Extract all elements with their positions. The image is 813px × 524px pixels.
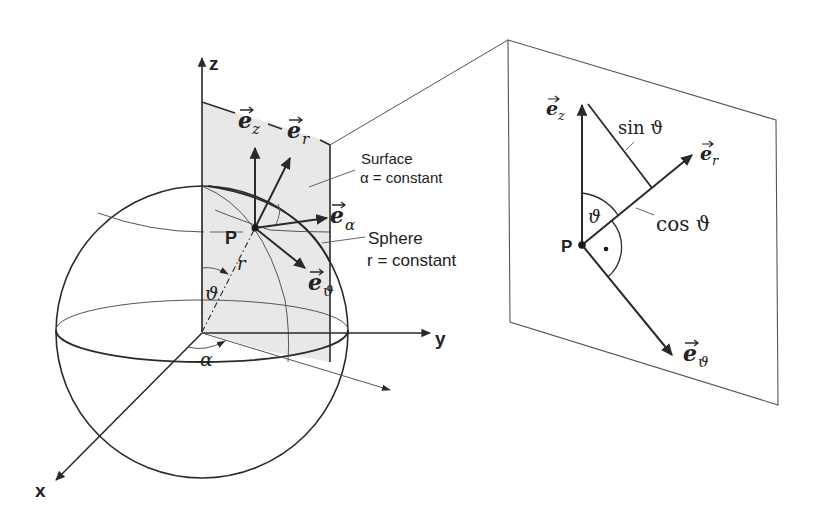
svg-text:z: z — [557, 108, 565, 123]
right-view: P ϑ sin ϑ cos ϑ e z e r e ϑ — [508, 40, 778, 405]
left-view: z y x P r ϑ α e z e r e α e ϑ Surface α — [35, 40, 508, 501]
panel-e-r-label: e r — [700, 141, 719, 168]
connector-top — [330, 40, 508, 145]
alpha-plane-panel — [508, 40, 778, 405]
svg-text:e: e — [287, 117, 301, 143]
svg-text:α: α — [345, 216, 355, 234]
sin-label: sin ϑ — [618, 117, 663, 138]
y-axis-label: y — [435, 328, 446, 349]
svg-text:e: e — [238, 107, 252, 133]
svg-text:ϑ: ϑ — [323, 282, 334, 300]
panel-e-theta-vector — [582, 245, 672, 355]
svg-text:e: e — [683, 340, 697, 366]
cos-leader — [636, 208, 654, 215]
svg-text:r: r — [712, 153, 719, 168]
right-angle-dot — [604, 247, 609, 252]
z-axis-label: z — [209, 53, 219, 74]
x-axis-label: x — [35, 480, 46, 501]
panel-point-p-label: P — [561, 237, 572, 256]
spherical-coordinates-diagram: z y x P r ϑ α e z e r e α e ϑ Surface α — [0, 0, 813, 524]
alpha-label: α — [200, 348, 213, 370]
e-alpha-label: e α — [330, 202, 355, 234]
sin-leader — [626, 142, 634, 150]
svg-text:r: r — [302, 130, 310, 148]
panel-point-p-dot — [578, 241, 586, 249]
panel-e-theta-label: e ϑ — [683, 340, 709, 371]
sphere-condition: r = constant — [367, 251, 457, 270]
point-p-dot — [252, 225, 259, 232]
svg-text:ϑ: ϑ — [698, 353, 709, 371]
radius-label: r — [237, 253, 247, 274]
sphere-title: Sphere — [368, 229, 423, 248]
panel-theta-label: ϑ — [588, 206, 601, 227]
svg-text:e: e — [308, 269, 322, 295]
surface-condition: α = constant — [360, 169, 443, 186]
cos-label: cos ϑ — [656, 212, 710, 236]
svg-text:z: z — [251, 120, 260, 138]
panel-e-z-label: e z — [546, 96, 565, 123]
svg-text:e: e — [330, 202, 344, 228]
point-p-label: P — [225, 228, 237, 248]
surface-title: Surface — [361, 150, 413, 167]
theta-label: ϑ — [205, 282, 219, 304]
right-angle-arc — [608, 221, 622, 277]
